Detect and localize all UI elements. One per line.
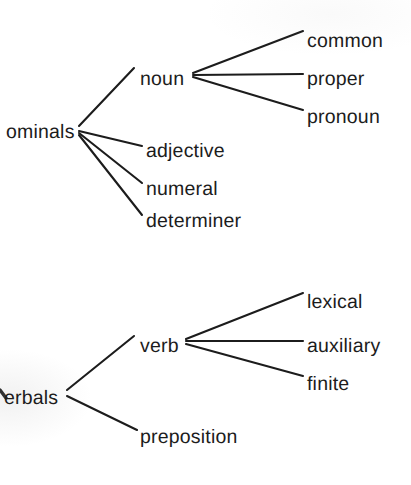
edge-ominals-to-noun — [79, 68, 134, 126]
edge-verbals-to-preposition — [67, 396, 137, 430]
edge-noun-to-proper — [193, 74, 303, 75]
node-determiner[interactable]: determiner — [146, 212, 241, 232]
edge-ominals-to-numeral — [79, 133, 142, 183]
node-auxiliary[interactable]: auxiliary — [307, 337, 380, 357]
node-numeral[interactable]: numeral — [146, 180, 218, 200]
node-preposition[interactable]: preposition — [140, 428, 238, 448]
edge-verbals-to-verb — [67, 336, 134, 390]
node-pronoun[interactable]: pronoun — [307, 108, 380, 128]
node-noun[interactable]: noun — [140, 70, 184, 90]
edge-verb-to-lexical — [186, 293, 303, 339]
node-nominals-root[interactable]: ominals — [6, 123, 75, 143]
node-common[interactable]: common — [307, 32, 383, 52]
node-lexical[interactable]: lexical — [307, 293, 363, 313]
node-adjective[interactable]: adjective — [146, 142, 225, 162]
edge-ominals-to-determiner — [79, 135, 142, 215]
node-proper[interactable]: proper — [307, 70, 365, 90]
node-verb[interactable]: verb — [140, 337, 179, 357]
edge-ominals-to-adjective — [79, 131, 142, 146]
node-verbals-root[interactable]: erbals — [4, 389, 58, 409]
tree-diagram-figure: ominals noun adjective numeral determine… — [0, 0, 411, 485]
node-finite[interactable]: finite — [307, 375, 349, 395]
edge-noun-to-pronoun — [193, 77, 303, 110]
edge-verb-to-finite — [186, 344, 303, 376]
edge-noun-to-common — [193, 31, 303, 73]
